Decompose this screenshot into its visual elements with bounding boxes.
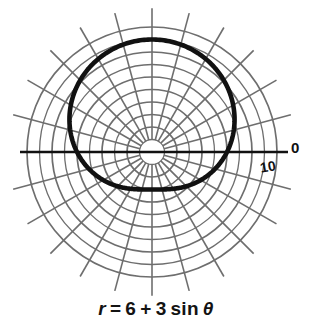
polar-axis-label: 0 [291,140,299,155]
grid-spoke [80,163,146,277]
grid-spoke [163,80,277,146]
caption-equals: = [110,298,121,319]
caption-variable-theta: θ [203,298,214,319]
grid-spoke [28,158,142,224]
caption-coefficient-b: 3 [156,298,167,319]
grid-spoke [80,28,146,142]
caption-variable-r: r [98,298,106,319]
grid-spoke [158,28,224,142]
polar-plot-figure: 0 10 r=6+3sinθ [0,0,312,331]
grid-spoke [158,163,224,277]
figure-caption: r=6+3sinθ [0,298,312,320]
caption-constant-a: 6 [125,298,136,319]
caption-plus: + [140,298,151,319]
radial-tick-label: 10 [259,158,277,174]
grid-spoke [28,80,142,146]
caption-function-sin: sin [171,298,199,319]
